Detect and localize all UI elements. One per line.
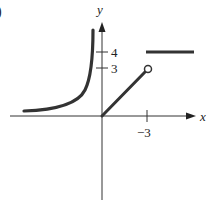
x-axis-arrow-icon [186,113,196,120]
y-tick-label-4: 4 [111,45,118,60]
panel-label: ) [0,4,2,20]
x-axis-label: x [199,109,206,124]
function-graph: ) x y 4 3 −3 [0,0,209,200]
open-circle-endpoint [145,66,152,73]
y-axis-label: y [95,2,103,17]
y-axis-arrow-icon [99,22,106,32]
middle-line-segment [102,72,145,116]
left-branch-curve [24,30,93,111]
x-tick-label-3: −3 [137,125,151,140]
y-tick-label-3: 3 [111,61,118,76]
